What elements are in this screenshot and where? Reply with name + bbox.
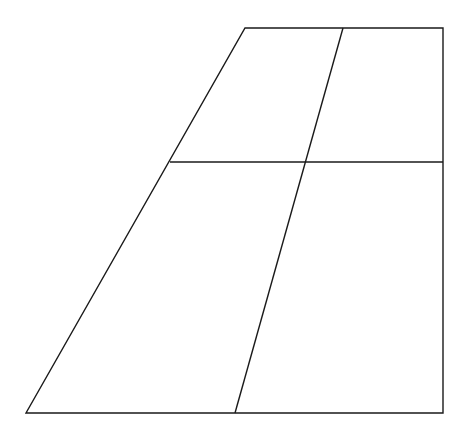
trapezoid-outline — [26, 28, 443, 413]
slanted-divider-line — [235, 28, 343, 413]
trapezoid-diagram — [0, 0, 471, 434]
